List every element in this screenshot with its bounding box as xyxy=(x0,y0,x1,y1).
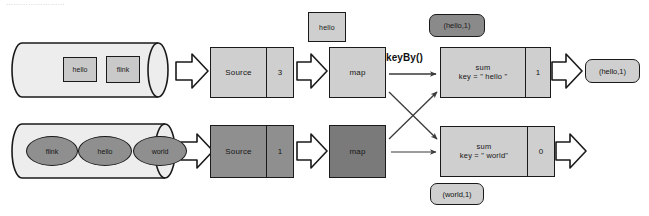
token-label: hello xyxy=(73,66,88,73)
operator-sum-bottom-main: sum key = " world" xyxy=(441,127,527,176)
operator-label: map xyxy=(349,147,365,156)
token-stream-bottom-2: world xyxy=(133,136,187,166)
token-label: flink xyxy=(46,148,58,155)
diagram-canvas: …………………… xyxy=(0,0,649,216)
token-stream-top-0: hello xyxy=(63,57,97,82)
token-stream-top-1: flink xyxy=(106,56,140,83)
block-arrow-map-bottom xyxy=(297,134,327,168)
operator-source-bottom-main: Source xyxy=(211,126,266,177)
token-map-input-hello: hello xyxy=(308,12,346,42)
operator-source-bottom-count: 1 xyxy=(266,126,293,177)
badge-keyby-input-hello: (hello,1) xyxy=(429,14,485,37)
operator-map-bottom[interactable]: map xyxy=(329,125,386,178)
token-label: hello xyxy=(319,24,335,31)
operator-source-bottom[interactable]: Source 1 xyxy=(210,125,294,178)
operator-sum-bottom[interactable]: sum key = " world" 0 xyxy=(440,126,555,177)
badge-keyby-input-world: (world,1) xyxy=(430,183,484,205)
token-label: world xyxy=(152,148,169,155)
block-arrow-source-top xyxy=(176,54,208,88)
operator-count-value: 1 xyxy=(278,147,283,156)
sum-key: key = " hello " xyxy=(459,73,508,82)
operator-label: sum key = " world" xyxy=(460,143,508,160)
badge-label: (hello,1) xyxy=(443,21,470,30)
operator-label: Source xyxy=(225,147,252,156)
operator-source-top-main: Source xyxy=(211,48,266,97)
operator-count-value: 1 xyxy=(536,68,541,77)
block-arrow-output-bottom xyxy=(556,134,586,168)
operator-count-value: 3 xyxy=(278,68,283,77)
operator-sum-top-main: sum key = " hello " xyxy=(441,48,525,97)
keyby-label: keyBy() xyxy=(386,52,423,63)
operator-count-value: 0 xyxy=(539,147,544,156)
token-stream-bottom-1: hello xyxy=(78,136,132,166)
operator-label: Source xyxy=(225,68,252,77)
block-arrow-map-top xyxy=(297,54,327,88)
output-badge-stream-top: (hello,1) xyxy=(585,59,640,83)
operator-source-top[interactable]: Source 3 xyxy=(210,47,294,98)
operator-source-top-count: 3 xyxy=(266,48,293,97)
token-label: hello xyxy=(98,148,113,155)
operator-map-top[interactable]: map xyxy=(329,47,386,98)
badge-label: (hello,1) xyxy=(599,67,626,76)
sum-key: key = " world" xyxy=(460,152,508,161)
token-stream-bottom-0: flink xyxy=(26,136,78,166)
badge-label: (world,1) xyxy=(442,190,471,199)
operator-label: sum key = " hello " xyxy=(459,64,508,81)
block-arrow-output-top xyxy=(552,54,582,88)
operator-label: map xyxy=(349,68,365,77)
operator-sum-bottom-count: 0 xyxy=(527,127,554,176)
token-label: flink xyxy=(117,66,129,73)
operator-sum-top[interactable]: sum key = " hello " 1 xyxy=(440,47,551,98)
operator-sum-top-count: 1 xyxy=(525,48,550,97)
